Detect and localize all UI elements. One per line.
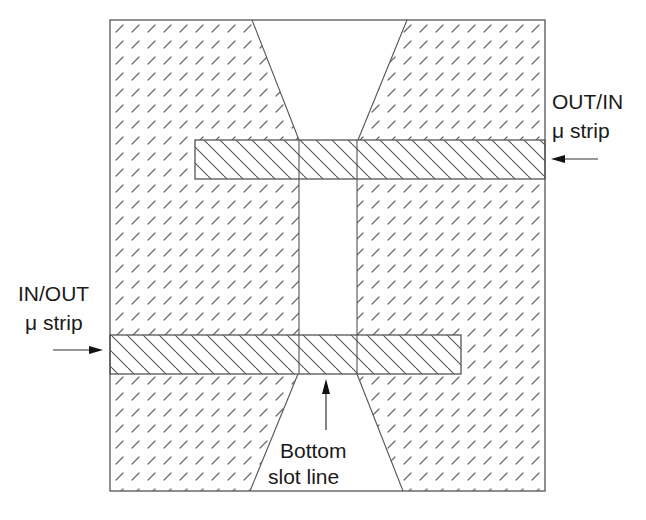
out-in-arrowhead-icon <box>551 155 565 163</box>
out-in-strip-label: μ strip <box>552 119 610 142</box>
bottom-microstrip <box>110 335 461 374</box>
top-microstrip <box>195 140 545 179</box>
bottom-slot-label: Bottom <box>280 439 347 462</box>
in-out-strip-label: μ strip <box>25 311 83 334</box>
out-in-label: OUT/IN <box>552 90 623 113</box>
in-out-arrowhead-icon <box>89 346 103 354</box>
out-in-annotation: OUT/IN μ strip <box>551 90 623 163</box>
in-out-label: IN/OUT <box>18 282 89 305</box>
bottom-slot-label-line2: slot line <box>268 465 339 488</box>
in-out-annotation: IN/OUT μ strip <box>18 282 103 354</box>
microstrip-slotline-diagram: OUT/IN μ strip IN/OUT μ strip Bottom slo… <box>0 0 646 520</box>
